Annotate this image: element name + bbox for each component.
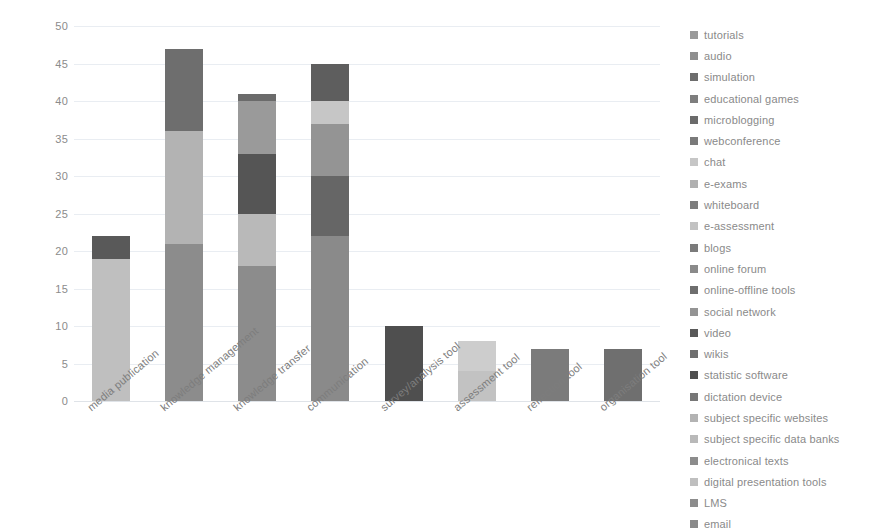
legend-item[interactable]: online forum (690, 258, 883, 279)
legend-label: dictation device (704, 391, 782, 403)
bar-segment[interactable] (311, 124, 349, 177)
legend-swatch-icon (690, 265, 698, 273)
bar-segment[interactable] (165, 131, 203, 244)
legend-label: simulation (704, 71, 755, 83)
bar-segment[interactable] (311, 101, 349, 124)
legend-label: LMS (704, 497, 727, 509)
legend-label: video (704, 327, 731, 339)
legend-item[interactable]: educational games (690, 88, 883, 109)
legend-item[interactable]: LMS (690, 493, 883, 514)
y-axis-tick-45: 45 (38, 58, 68, 69)
legend-item[interactable]: audio (690, 45, 883, 66)
legend-swatch-icon (690, 137, 698, 145)
y-axis-tick-15: 15 (38, 283, 68, 294)
bar-segment[interactable] (92, 236, 130, 259)
legend-item[interactable]: digital presentation tools (690, 471, 883, 492)
legend-swatch-icon (690, 393, 698, 401)
legend-swatch-icon (690, 73, 698, 81)
bar-slot (367, 26, 440, 401)
bar-segment[interactable] (311, 176, 349, 236)
bar-segment[interactable] (238, 101, 276, 154)
x-axis-labels: media publicationknowledge managementkno… (74, 404, 660, 524)
legend-swatch-icon (690, 222, 698, 230)
plot-area: 05101520253035404550 media publicationkn… (0, 0, 680, 525)
legend-item[interactable]: webconference (690, 130, 883, 151)
legend-item[interactable]: subject specific data banks (690, 429, 883, 450)
y-axis-tick-10: 10 (38, 321, 68, 332)
legend-item[interactable]: online-offline tools (690, 280, 883, 301)
legend-swatch-icon (690, 457, 698, 465)
legend-swatch-icon (690, 414, 698, 422)
legend-swatch-icon (690, 31, 698, 39)
y-axis-tick-0: 0 (38, 396, 68, 407)
legend-label: wikis (704, 348, 729, 360)
legend-swatch-icon (690, 478, 698, 486)
legend-item[interactable]: e-assessment (690, 216, 883, 237)
bar-slot (74, 26, 147, 401)
bar-communication[interactable] (311, 64, 349, 402)
legend-label: microblogging (704, 114, 774, 126)
bar-knowledge-transfer[interactable] (238, 94, 276, 402)
legend-swatch-icon (690, 286, 698, 294)
legend-label: subject specific data banks (704, 433, 840, 445)
legend-label: educational games (704, 93, 799, 105)
legend-item[interactable]: microblogging (690, 109, 883, 130)
bar-segment[interactable] (238, 94, 276, 102)
bar-segment[interactable] (311, 64, 349, 102)
legend-label: email (704, 518, 731, 530)
bar-segment[interactable] (238, 154, 276, 214)
y-axis-tick-30: 30 (38, 171, 68, 182)
legend-item[interactable]: simulation (690, 67, 883, 88)
y-axis-tick-35: 35 (38, 133, 68, 144)
bar-knowledge-management[interactable] (165, 49, 203, 402)
legend-item[interactable]: whiteboard (690, 194, 883, 215)
legend-swatch-icon (690, 52, 698, 60)
legend-item[interactable]: subject specific websites (690, 407, 883, 428)
legend-swatch-icon (690, 350, 698, 358)
legend-label: online-offline tools (704, 284, 795, 296)
legend-item[interactable]: social network (690, 301, 883, 322)
legend-swatch-icon (690, 329, 698, 337)
legend-item[interactable]: blogs (690, 237, 883, 258)
legend-item[interactable]: e-exams (690, 173, 883, 194)
legend-label: statistic software (704, 369, 788, 381)
bar-segment[interactable] (165, 49, 203, 132)
y-axis-tick-5: 5 (38, 358, 68, 369)
legend-swatch-icon (690, 95, 698, 103)
bar-segment[interactable] (238, 214, 276, 267)
legend-label: electronical texts (704, 455, 789, 467)
y-axis-tick-25: 25 (38, 208, 68, 219)
legend-label: digital presentation tools (704, 476, 827, 488)
y-axis-tick-50: 50 (38, 21, 68, 32)
legend-swatch-icon (690, 180, 698, 188)
legend-item[interactable]: statistic software (690, 365, 883, 386)
legend-item[interactable]: video (690, 322, 883, 343)
legend-swatch-icon (690, 201, 698, 209)
legend-item[interactable]: dictation device (690, 386, 883, 407)
legend-label: online forum (704, 263, 766, 275)
legend-item[interactable]: email (690, 514, 883, 532)
legend-swatch-icon (690, 435, 698, 443)
legend-item[interactable]: chat (690, 152, 883, 173)
bar-slot (587, 26, 660, 401)
legend-label: e-exams (704, 178, 747, 190)
legend-swatch-icon (690, 371, 698, 379)
legend-item[interactable]: electronical texts (690, 450, 883, 471)
bar-segment[interactable] (458, 341, 496, 371)
bar-slot (147, 26, 220, 401)
y-axis-tick-40: 40 (38, 96, 68, 107)
legend-item[interactable]: wikis (690, 343, 883, 364)
legend-label: tutorials (704, 29, 744, 41)
legend-swatch-icon (690, 244, 698, 252)
legend-item[interactable]: tutorials (690, 24, 883, 45)
legend-label: audio (704, 50, 732, 62)
legend-swatch-icon (690, 499, 698, 507)
bar-slot (514, 26, 587, 401)
legend-swatch-icon (690, 520, 698, 528)
y-axis-tick-20: 20 (38, 246, 68, 257)
y-axis: 05101520253035404550 (38, 26, 68, 401)
legend-label: e-assessment (704, 220, 774, 232)
legend-swatch-icon (690, 158, 698, 166)
chart-legend: tutorialsaudiosimulationeducational game… (690, 24, 883, 514)
